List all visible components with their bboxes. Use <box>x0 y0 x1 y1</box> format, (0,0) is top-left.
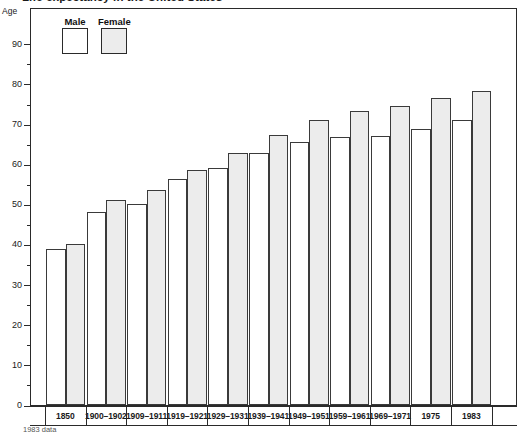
x-axis-separator-start <box>45 406 46 425</box>
bar-female-1939–1941 <box>269 135 289 405</box>
x-axis-baseline <box>30 425 517 426</box>
bars-layer <box>31 9 516 405</box>
bar-female-1900–1902 <box>106 200 126 405</box>
x-tick-label-1983: 1983 <box>451 406 492 425</box>
y-tick-mark <box>27 145 30 146</box>
y-tick-mark <box>24 365 30 366</box>
x-axis-separator <box>289 406 290 425</box>
legend-swatch <box>101 28 127 54</box>
y-tick-label: 80 <box>12 79 22 90</box>
x-axis-separator <box>410 406 411 425</box>
footnote: 1983 data <box>23 425 56 434</box>
bar-male-1975 <box>411 129 431 405</box>
bar-female-1929–1931 <box>228 153 248 405</box>
y-tick-mark <box>27 225 30 226</box>
y-tick-mark <box>24 325 30 326</box>
bar-female-1959–1961 <box>350 111 370 405</box>
x-tick-label-1969–1971: 1969–1971 <box>370 406 411 425</box>
bar-male-1900–1902 <box>87 212 107 405</box>
y-tick-mark <box>24 245 30 246</box>
x-tick-label-1939–1941: 1939–1941 <box>248 406 289 425</box>
bar-female-1909–1911 <box>147 190 167 405</box>
y-tick-label: 0 <box>17 400 22 411</box>
x-tick-label-1919–1921: 1919–1921 <box>167 406 208 425</box>
bar-female-1949–1951 <box>309 120 329 405</box>
x-tick-label-1959–1961: 1959–1961 <box>329 406 370 425</box>
legend-swatch <box>62 28 88 54</box>
y-tick-mark <box>24 84 30 85</box>
x-axis-separator <box>370 406 371 425</box>
x-axis-separator <box>126 406 127 425</box>
bar-male-1929–1931 <box>208 168 228 405</box>
bar-male-1850 <box>46 249 66 406</box>
x-axis-separator <box>329 406 330 425</box>
legend-male: Male <box>62 16 88 54</box>
x-axis-separator <box>451 406 452 425</box>
bar-male-1919–1921 <box>168 179 188 405</box>
bar-male-1983 <box>452 120 472 405</box>
y-tick-mark <box>27 345 30 346</box>
legend-label: Female <box>98 16 131 27</box>
y-tick-mark <box>24 285 30 286</box>
y-tick-label: 60 <box>12 159 22 170</box>
y-tick-mark <box>24 44 30 45</box>
y-tick-mark <box>27 105 30 106</box>
y-tick-label: 90 <box>12 39 22 50</box>
y-tick-label: 30 <box>12 280 22 291</box>
x-axis-separator <box>86 406 87 425</box>
legend-female: Female <box>98 16 131 54</box>
y-tick-mark <box>27 64 30 65</box>
y-tick-label: 20 <box>12 320 22 331</box>
bar-female-1983 <box>472 91 492 405</box>
bar-female-1850 <box>66 244 86 405</box>
bar-female-1919–1921 <box>187 170 207 405</box>
y-tick-label: 40 <box>12 239 22 250</box>
y-axis-caption: Age <box>2 6 17 16</box>
y-tick-mark <box>24 205 30 206</box>
bar-male-1949–1951 <box>290 142 310 405</box>
bar-male-1909–1911 <box>127 204 147 405</box>
y-tick-label: 10 <box>12 360 22 371</box>
x-axis-separator <box>207 406 208 425</box>
y-tick-label: 50 <box>12 199 22 210</box>
page-title: Life expectancy in the United States <box>22 0 222 3</box>
bar-female-1975 <box>431 98 451 405</box>
y-tick-mark <box>27 385 30 386</box>
y-tick-mark <box>27 265 30 266</box>
x-axis-separator <box>167 406 168 425</box>
x-axis: 18501900–19021909–19111919–19211929–1931… <box>30 406 517 426</box>
y-tick-mark <box>27 185 30 186</box>
y-tick-mark <box>24 125 30 126</box>
bar-female-1969–1971 <box>390 106 410 405</box>
x-tick-label-1909–1911: 1909–1911 <box>126 406 167 425</box>
x-tick-label-1850: 1850 <box>45 406 86 425</box>
x-tick-label-1900–1902: 1900–1902 <box>86 406 127 425</box>
y-tick-mark <box>24 165 30 166</box>
x-tick-label-1949–1951: 1949–1951 <box>289 406 330 425</box>
x-axis-separator-end <box>492 406 493 425</box>
x-tick-label-1929–1931: 1929–1931 <box>207 406 248 425</box>
y-tick-label: 70 <box>12 119 22 130</box>
y-tick-mark <box>27 305 30 306</box>
bar-male-1959–1961 <box>330 137 350 405</box>
x-tick-label-1975: 1975 <box>410 406 451 425</box>
legend-label: Male <box>62 16 88 27</box>
bar-male-1969–1971 <box>371 136 391 405</box>
x-axis-separator <box>248 406 249 425</box>
bar-male-1939–1941 <box>249 153 269 405</box>
